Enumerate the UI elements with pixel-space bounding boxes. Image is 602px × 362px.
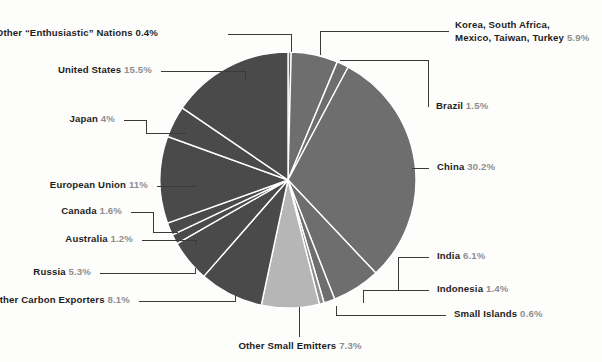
leader-line-korea-group — [320, 31, 449, 55]
leader-line-indonesia — [363, 290, 429, 303]
label-percent: 7.3% — [339, 340, 361, 351]
label-text: Small Islands — [454, 308, 517, 319]
leader-line-australia — [142, 240, 196, 245]
leader-line-small-islands — [336, 306, 446, 315]
label-text: Brazil — [436, 100, 463, 111]
label-percent: 5.3% — [69, 266, 91, 277]
label-text-line2: Mexico, Taiwan, Turkey — [455, 32, 564, 43]
label-text: India — [437, 250, 460, 261]
label-other-carbon-exporters: Other Carbon Exporters 8.1% — [0, 294, 130, 307]
leader-line-japan — [124, 120, 186, 133]
label-text: European Union — [50, 179, 126, 190]
label-text: Indonesia — [437, 283, 483, 294]
label-percent: 1.2% — [111, 233, 133, 244]
label-percent: 4% — [101, 113, 115, 124]
label-text: Canada — [61, 205, 97, 216]
label-brazil: Brazil 1.5% — [436, 100, 488, 113]
label-australia: Australia 1.2% — [65, 233, 133, 246]
label-percent: 6.1% — [463, 250, 485, 261]
leader-line-canada — [131, 212, 178, 232]
label-korea-group: Korea, South Africa,Mexico, Taiwan, Turk… — [455, 19, 589, 44]
pie-chart-figure: Other “Enthusiastic” Nations 0.4% United… — [0, 0, 602, 362]
label-text: China — [437, 161, 464, 172]
leader-line-other-carbon-exporters — [139, 294, 235, 301]
label-text: Japan — [70, 113, 98, 124]
label-percent: 5.9% — [567, 32, 589, 43]
leader-line-enthusiastic — [228, 34, 291, 52]
label-text: Australia — [65, 233, 107, 244]
label-text-line1: Korea, South Africa, — [455, 19, 550, 30]
label-small-islands: Small Islands 0.6% — [454, 308, 543, 321]
label-canada: Canada 1.6% — [61, 205, 122, 218]
label-india: India 6.1% — [437, 250, 485, 263]
label-european-union: European Union 11% — [50, 179, 148, 192]
label-percent: 11% — [129, 179, 148, 190]
label-text: Other “Enthusiastic” Nations — [0, 27, 133, 38]
leader-line-india — [398, 257, 429, 290]
label-china: China 30.2% — [437, 161, 495, 174]
label-percent: 0.4% — [136, 27, 158, 38]
label-text: Other Carbon Exporters — [0, 294, 105, 305]
label-percent: 1.4% — [486, 283, 508, 294]
leader-line-brazil — [340, 60, 428, 107]
label-united-states: United States 15.5% — [58, 64, 152, 77]
label-text: Russia — [33, 266, 65, 277]
leader-line-russia — [100, 268, 195, 273]
label-russia: Russia 5.3% — [33, 266, 91, 279]
label-percent: 1.6% — [100, 205, 122, 216]
label-japan: Japan 4% — [70, 113, 115, 126]
label-other-small-emitters: Other Small Emitters 7.3% — [180, 340, 420, 353]
label-indonesia: Indonesia 1.4% — [437, 283, 508, 296]
label-other-enthusiastic-nations: Other “Enthusiastic” Nations 0.4% — [0, 27, 158, 40]
label-text: United States — [58, 64, 121, 75]
label-percent: 1.5% — [466, 100, 488, 111]
label-text: Other Small Emitters — [238, 340, 336, 351]
label-percent: 8.1% — [108, 294, 130, 305]
label-percent: 30.2% — [467, 161, 495, 172]
leader-line-united-states — [161, 71, 245, 80]
label-percent: 15.5% — [124, 64, 152, 75]
label-percent: 0.6% — [520, 308, 542, 319]
